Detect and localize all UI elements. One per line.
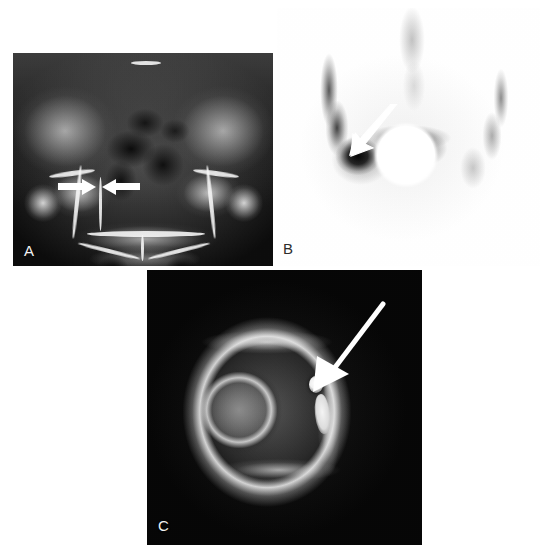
arrow-left-icon: [58, 179, 100, 194]
panel-c-ct: C: [147, 270, 422, 545]
arrow-head: [82, 179, 96, 195]
arrow-head: [102, 179, 116, 195]
radiology-figure: A B C: [0, 0, 545, 554]
arrow-right-icon: [98, 179, 140, 194]
arrow-head: [313, 356, 349, 392]
arrow-down-left-icon: [297, 300, 387, 400]
iliac-crest-midline: [131, 61, 161, 65]
panel-a-radiograph: A: [13, 53, 273, 266]
arrow-shaft: [114, 183, 140, 190]
arrow-shaft: [58, 183, 84, 190]
panel-b-bone-scan: B: [277, 8, 540, 266]
superior-pubic-rami: [87, 231, 205, 237]
pubic-symphysis: [141, 235, 144, 261]
arrow-down-left-icon: [347, 104, 399, 158]
